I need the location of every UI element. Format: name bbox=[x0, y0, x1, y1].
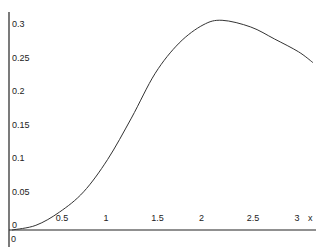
x-tick-label: 1 bbox=[104, 213, 109, 223]
y-tick-label: 0.25 bbox=[12, 53, 30, 63]
x-tick-label: 1.5 bbox=[151, 213, 164, 223]
data-curve bbox=[12, 20, 313, 230]
y-tick-label: 0.15 bbox=[12, 120, 30, 130]
line-chart: 00.050.10.150.20.250.3 0.511.522.53 x 0 bbox=[0, 0, 323, 247]
y-tick-labels: 00.050.10.150.20.250.3 bbox=[12, 19, 30, 230]
y-tick-label: 0.3 bbox=[12, 19, 25, 29]
x-tick-label: 2 bbox=[199, 213, 204, 223]
x-tick-labels: 0.511.522.53 bbox=[56, 213, 300, 223]
y-tick-label: 0.1 bbox=[12, 153, 25, 163]
y-tick-label: 0 bbox=[12, 220, 17, 230]
x-tick-label: 3 bbox=[295, 213, 300, 223]
x-tick-label: 0.5 bbox=[56, 213, 69, 223]
y-tick-label: 0.2 bbox=[12, 86, 25, 96]
y-tick-label: 0.05 bbox=[12, 187, 30, 197]
x-axis-label: x bbox=[308, 213, 313, 223]
origin-label: 0 bbox=[11, 234, 16, 244]
x-tick-label: 2.5 bbox=[247, 213, 260, 223]
